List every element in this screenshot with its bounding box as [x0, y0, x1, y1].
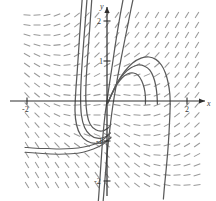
tick-label-x-pos2: 2: [185, 105, 189, 114]
tick-label-x-neg2: -2: [22, 105, 29, 114]
slope-dash: [134, 115, 141, 116]
slope-dash: [144, 105, 151, 106]
slope-dash: [144, 115, 151, 116]
slope-field-figure: -2 2 2 1 -1 -2 x y: [0, 0, 216, 201]
slope-dash: [64, 95, 71, 96]
slope-dash: [74, 85, 81, 86]
slope-dash: [54, 45, 61, 46]
tick-label-y-pos1: 1: [99, 57, 103, 66]
slope-dash: [144, 125, 151, 126]
slope-dash: [64, 85, 71, 86]
slope-dash: [154, 155, 161, 156]
tick-label-y-neg1: -1: [96, 137, 103, 146]
y-axis-label: y: [99, 2, 104, 11]
slope-dash: [134, 105, 141, 106]
slope-dash: [74, 95, 81, 96]
tick-label-y-pos2: 2: [97, 17, 101, 26]
slope-dash: [134, 85, 141, 86]
slope-dash: [34, 15, 41, 16]
slope-dash: [154, 145, 161, 146]
slope-dash: [64, 75, 71, 76]
tick-label-y-neg2: -2: [94, 177, 101, 186]
x-axis-label: x: [206, 99, 211, 108]
